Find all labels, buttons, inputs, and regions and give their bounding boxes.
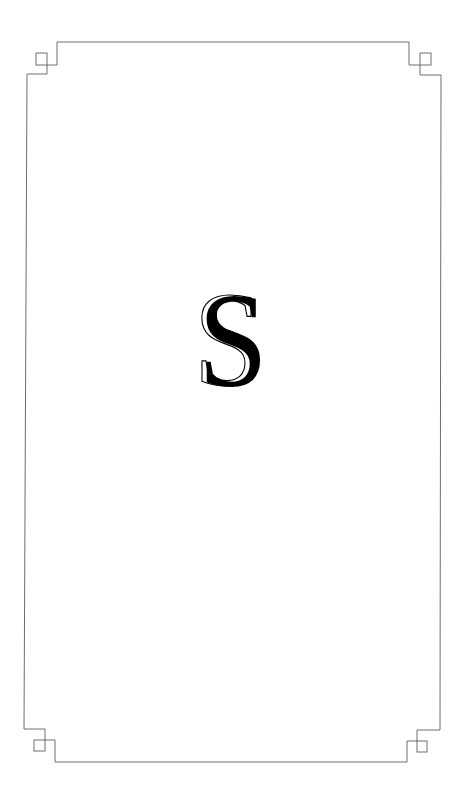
corner-square-bottom-left <box>34 740 45 751</box>
corner-square-top-left <box>36 53 47 65</box>
initial-letter-outline: S <box>194 271 264 407</box>
initial-letter-container: S S <box>19 272 448 408</box>
corner-square-top-right <box>420 53 431 65</box>
corner-square-bottom-right <box>417 741 427 752</box>
initial-letter: S S <box>198 272 268 408</box>
